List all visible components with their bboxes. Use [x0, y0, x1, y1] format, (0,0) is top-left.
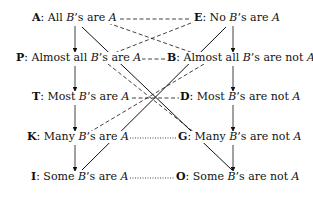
node-text-part: All: [48, 11, 66, 24]
node-key: G: [178, 130, 187, 143]
node-key: D: [180, 90, 190, 103]
node-d: D: Most B’s are not A: [179, 91, 301, 103]
node-key: T: [32, 90, 40, 103]
node-separator: :: [190, 90, 197, 103]
node-text-part: B: [227, 170, 235, 183]
node-text-part: Almost all: [31, 51, 90, 64]
node-g: G: Many B’s are not A: [177, 131, 302, 143]
node-separator: :: [202, 11, 209, 24]
node-key: B: [167, 51, 176, 64]
node-p: P: Almost all B’s are A: [15, 52, 142, 64]
node-i: I: Some B’s are A: [30, 171, 129, 183]
node-separator: :: [37, 130, 44, 143]
node-o: O: Some B’s are not A: [175, 171, 301, 183]
node-text-part: A: [272, 11, 280, 24]
node-key: O: [176, 170, 186, 183]
node-text-part: ’s are: [74, 11, 108, 24]
node-separator: :: [41, 11, 48, 24]
node-k: K: Many B’s are A: [26, 131, 130, 143]
node-text-part: B: [243, 51, 251, 64]
node-text-part: Many: [44, 130, 79, 143]
node-t: T: Most B’s are A: [31, 91, 130, 103]
edge-e-p: [112, 23, 191, 54]
node-text-part: Many: [195, 130, 230, 143]
node-a: A: All B’s are A: [31, 12, 118, 24]
node-text-part: Almost all: [184, 51, 243, 64]
node-text-part: No: [210, 11, 230, 24]
node-text-part: Some: [43, 170, 78, 183]
node-text-part: ’s are not: [251, 51, 307, 64]
node-text-part: A: [293, 130, 301, 143]
node-text-part: Some: [193, 170, 228, 183]
node-text-part: ’s are: [86, 130, 120, 143]
node-separator: :: [186, 170, 193, 183]
node-text-part: A: [121, 130, 129, 143]
node-text-part: B: [91, 51, 99, 64]
node-text-part: ’s are: [237, 11, 271, 24]
node-text-part: A: [133, 51, 141, 64]
node-separator: :: [176, 51, 183, 64]
node-text-part: A: [292, 170, 300, 183]
node-b: B: Almost all B’s are not A: [166, 52, 313, 64]
node-text-part: A: [307, 51, 313, 64]
node-text-part: ’s are: [87, 90, 121, 103]
node-e: E: No B’s are A: [193, 12, 281, 24]
node-key: K: [27, 130, 37, 143]
node-text-part: ’s are: [86, 170, 120, 183]
node-text-part: B: [79, 90, 87, 103]
node-text-part: A: [109, 11, 117, 24]
node-text-part: ’s are: [99, 51, 133, 64]
node-separator: :: [187, 130, 194, 143]
node-text-part: A: [121, 90, 129, 103]
node-text-part: A: [121, 170, 129, 183]
node-text-part: ’s are not: [236, 170, 292, 183]
node-text-part: ’s are not: [237, 130, 293, 143]
node-text-part: A: [292, 90, 300, 103]
node-text-part: ’s are not: [236, 90, 292, 103]
node-key: A: [32, 11, 41, 24]
node-text-part: Most: [197, 90, 228, 103]
node-text-part: Most: [47, 90, 78, 103]
node-text-part: B: [78, 170, 86, 183]
